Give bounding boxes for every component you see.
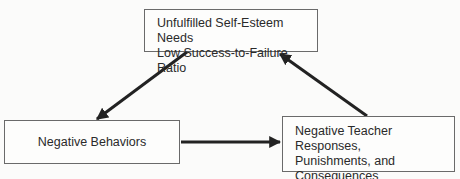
node-line: Consequences [295,169,454,179]
node-line: Negative Behaviors [38,135,146,150]
node-negative-behaviors: Negative Behaviors [4,120,180,164]
node-line: Negative Teacher Responses, [295,124,454,154]
node-line: Punishments, and [295,154,454,169]
node-self-esteem-needs: Unfulfilled Self-Esteem Needs Low Succes… [144,9,318,52]
cropped-caption [4,174,144,179]
node-teacher-responses: Negative Teacher Responses, Punishments,… [282,116,455,172]
node-line: Unfulfilled Self-Esteem Needs [157,16,317,46]
node-line: Low Success-to-Failure Ratio [157,46,317,76]
